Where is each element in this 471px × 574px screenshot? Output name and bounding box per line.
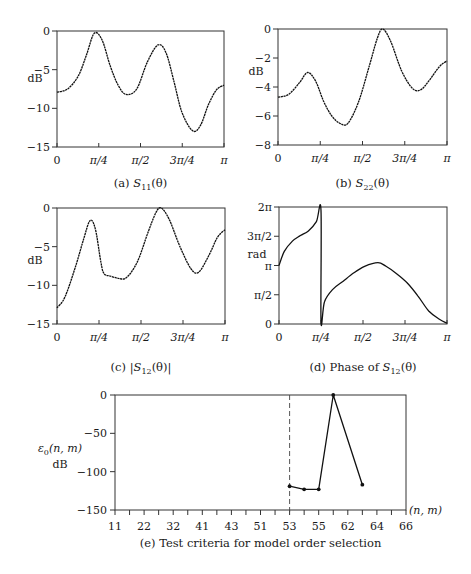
x-tick-label: 66 <box>399 520 413 533</box>
y-tick-label: −10 <box>27 279 50 292</box>
plot-frame <box>278 29 447 145</box>
x-tick-label: 41 <box>195 520 209 533</box>
chart-s22: 0−2−4−6−8dB0π/4π/23π/4π(b) S22(θ) <box>248 23 451 192</box>
x-tick-label: 0 <box>54 154 61 167</box>
data-curve <box>279 205 447 326</box>
x-tick-label: 22 <box>137 520 151 533</box>
x-tick-label: 3π/4 <box>170 154 195 167</box>
data-point <box>331 393 335 397</box>
y-axis-label: dB <box>27 72 42 85</box>
data-curve <box>278 29 447 125</box>
chart-caption: (e) Test criteria for model order select… <box>140 536 382 550</box>
x-tick-label: 53 <box>283 520 297 533</box>
chart-s11: 0−5−10−15dB0π/4π/23π/4π(a) S11(θ) <box>27 25 229 192</box>
y-tick-label: −15 <box>27 318 50 331</box>
y-tick-label: −150 <box>77 504 107 517</box>
criteria-line <box>290 395 363 489</box>
x-tick-label: π <box>220 331 229 344</box>
y-tick-label: −50 <box>84 427 107 440</box>
x-tick-label: π/4 <box>311 331 330 344</box>
x-tick-label: 51 <box>254 520 268 533</box>
x-tick-label: π/2 <box>131 154 150 167</box>
plot-frame <box>279 207 447 324</box>
plot-frame <box>57 208 225 324</box>
y-axis-label: rad <box>248 248 267 261</box>
x-tick-label: π/4 <box>89 331 108 344</box>
chart-s12-magnitude: 0−5−10−15dB0π/4π/23π/4π(c) |S12(θ)| <box>27 202 230 376</box>
chart-caption: (c) |S12(θ)| <box>111 360 172 376</box>
y-tick-label: −15 <box>27 141 50 154</box>
y-tick-label: 0 <box>43 25 50 38</box>
x-tick-label: 0 <box>276 331 283 344</box>
y-tick-label: π/2 <box>254 289 272 302</box>
x-tick-label: π/4 <box>310 152 329 165</box>
x-tick-label: 62 <box>341 520 355 533</box>
chart-caption: (b) S22(θ) <box>336 176 390 192</box>
x-tick-label: π <box>442 331 451 344</box>
chart-caption: (a) S11(θ) <box>114 176 167 192</box>
x-tick-label: π/4 <box>89 154 108 167</box>
x-tick-label: 43 <box>224 520 238 533</box>
data-point <box>360 483 364 487</box>
y-axis-label: dB <box>27 254 42 267</box>
y-tick-label: 2π <box>258 201 272 214</box>
figure-canvas: 0−5−10−15dB0π/4π/23π/4π(a) S11(θ) 0−2−4−… <box>0 0 471 574</box>
y-tick-label: −2 <box>255 52 271 65</box>
chart-model-order-criteria: 0−50−100−1501122324143515355626466(n, m)… <box>38 389 442 550</box>
x-tick-label: π <box>219 154 228 167</box>
x-tick-label: 0 <box>275 152 282 165</box>
x-tick-label: π <box>442 152 451 165</box>
y-tick-label: π <box>265 260 272 273</box>
y-axis-label: ε0(n, m) <box>38 442 82 457</box>
plot-frame <box>115 395 406 510</box>
y-tick-label: −100 <box>77 466 107 479</box>
x-tick-label: 32 <box>166 520 180 533</box>
x-axis-label: (n, m) <box>409 504 442 517</box>
y-axis-unit: dB <box>52 458 67 471</box>
y-tick-label: −10 <box>27 102 50 115</box>
chart-caption: (d) Phase of S12(θ) <box>309 360 416 376</box>
data-point <box>302 487 306 491</box>
data-curve <box>57 33 224 132</box>
x-tick-label: π/2 <box>131 331 150 344</box>
data-point <box>317 487 321 491</box>
y-axis-label: dB <box>248 65 263 78</box>
x-tick-label: 3π/4 <box>392 152 417 165</box>
y-tick-label: 0 <box>264 23 271 36</box>
y-tick-label: −4 <box>255 81 271 94</box>
plot-frame <box>57 31 224 147</box>
x-tick-label: 3π/4 <box>171 331 196 344</box>
x-tick-label: π/2 <box>353 152 372 165</box>
y-tick-label: −5 <box>34 241 50 254</box>
y-tick-label: −8 <box>255 139 271 152</box>
chart-s12-phase: 2π3π/2ππ/20rad0π/4π/23π/4π(d) Phase of S… <box>247 201 451 376</box>
data-curve <box>57 208 225 308</box>
data-point <box>288 484 292 488</box>
x-tick-label: 3π/4 <box>393 331 418 344</box>
y-tick-label: −6 <box>255 110 271 123</box>
x-tick-label: 11 <box>108 520 122 533</box>
x-tick-label: π/2 <box>353 331 372 344</box>
x-tick-label: 64 <box>370 520 384 533</box>
x-tick-label: 55 <box>312 520 326 533</box>
y-tick-label: 0 <box>100 389 107 402</box>
x-tick-label: 0 <box>54 331 61 344</box>
y-tick-label: 0 <box>265 318 272 331</box>
y-tick-label: 0 <box>43 202 50 215</box>
y-tick-label: 3π/2 <box>247 230 272 243</box>
